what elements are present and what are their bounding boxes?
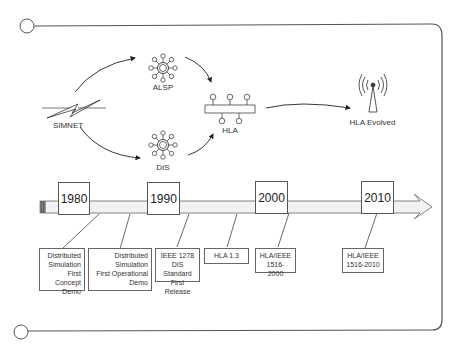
year-1980: 1980	[58, 182, 90, 215]
diagram-canvas	[0, 0, 456, 353]
event-note-hla-2010: HLA/IEEE 1516-2010	[342, 248, 384, 273]
event-note-hla-2000: HLA/IEEE 1516-2000	[255, 248, 296, 273]
year-1990: 1990	[147, 182, 180, 215]
event-note-first-operational: Distributed Simulation First Operational…	[88, 248, 152, 291]
antenna-broadcast-icon	[359, 74, 387, 112]
dis-label: DIS	[150, 163, 176, 172]
alsp-hub-icon	[149, 54, 177, 82]
simnet-label: SIMNET	[48, 121, 88, 130]
event-note-first-concept: Distributed Simulation First Concept Dem…	[39, 248, 85, 291]
dis-hub-icon	[149, 131, 177, 159]
year-2010: 2010	[361, 181, 394, 214]
lightning-network-icon	[42, 100, 106, 118]
hla-evolved-label: HLA Evolved	[345, 118, 400, 127]
year-2000: 2000	[255, 181, 288, 214]
alsp-label: ALSP	[150, 83, 176, 92]
event-note-ieee-1278: IEEE 1278 DIS Standard First Release	[155, 248, 200, 282]
hla-label: HLA	[220, 126, 240, 135]
hla-bus-icon	[205, 94, 255, 124]
event-note-hla-1-3: HLA 1.3	[204, 248, 249, 264]
event-connectors	[62, 213, 377, 249]
